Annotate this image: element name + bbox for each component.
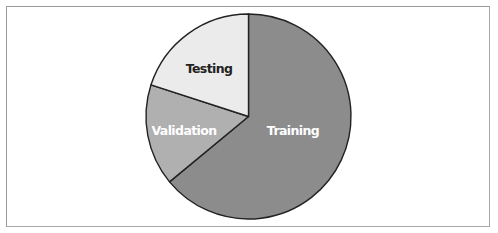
pie-chart: Training Validation Testing xyxy=(0,0,498,233)
pie-slices xyxy=(146,14,351,219)
slice-label-training: Training xyxy=(267,123,319,138)
slice-label-testing: Testing xyxy=(186,61,233,76)
slice-label-validation: Validation xyxy=(151,123,216,138)
